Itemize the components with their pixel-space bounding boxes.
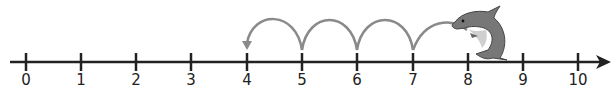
tick-label-2: 2 xyxy=(131,71,141,89)
tick-label-4: 4 xyxy=(242,71,252,89)
tick-label-3: 3 xyxy=(186,71,196,89)
tick-label-5: 5 xyxy=(297,71,307,89)
tick-label-8: 8 xyxy=(463,71,473,89)
jump-arc-5-4 xyxy=(247,19,302,50)
tick-label-6: 6 xyxy=(352,71,362,89)
tick-label-9: 9 xyxy=(518,71,528,89)
tick-label-0: 0 xyxy=(21,71,31,89)
dolphin-icon xyxy=(452,6,507,60)
jump-arc-7-6 xyxy=(357,20,413,50)
tick-label-10: 10 xyxy=(568,71,587,89)
tick-label-7: 7 xyxy=(408,71,418,89)
jump-arcs xyxy=(247,19,467,50)
tick-label-1: 1 xyxy=(76,71,86,89)
jump-arrowhead-icon xyxy=(242,41,252,50)
jump-arc-6-5 xyxy=(302,20,357,50)
